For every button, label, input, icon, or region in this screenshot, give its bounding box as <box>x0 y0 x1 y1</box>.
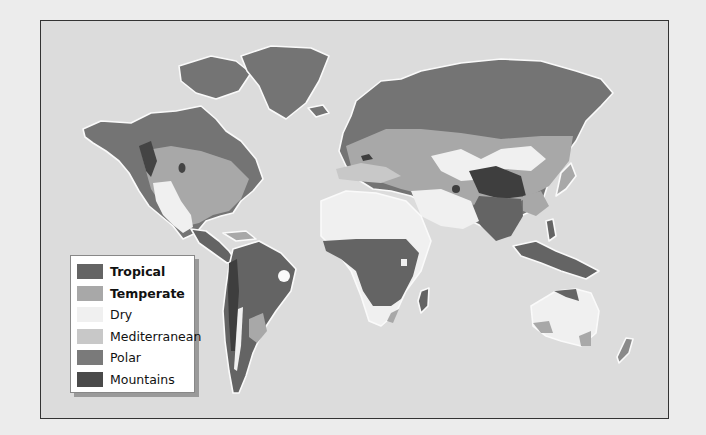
canadian-archipelago <box>179 56 251 99</box>
caribbean <box>223 231 256 241</box>
iceland <box>308 105 329 117</box>
swatch-polar <box>77 350 103 365</box>
swatch-mountains <box>77 372 103 387</box>
africa-dry-patch <box>401 259 407 266</box>
indonesia <box>513 241 599 279</box>
legend-item-dry: Dry <box>77 304 188 326</box>
legend-item-polar: Polar <box>77 347 188 369</box>
legend-label: Polar <box>110 350 141 365</box>
brazil-dry-patch <box>278 270 290 282</box>
legend-label: Dry <box>110 307 132 322</box>
legend-label: Temperate <box>110 286 185 301</box>
legend-item-temperate: Temperate <box>77 283 188 305</box>
legend-label: Tropical <box>110 264 165 279</box>
legend: Tropical Temperate Dry Mediterranean Pol… <box>70 255 195 393</box>
mountains-patch <box>179 163 186 173</box>
swatch-dry <box>77 307 103 322</box>
legend-label: Mediterranean <box>110 329 201 344</box>
legend-label: Mountains <box>110 372 175 387</box>
south-asia-tropical <box>471 196 523 241</box>
philippines <box>546 219 556 241</box>
legend-item-mountains: Mountains <box>77 369 188 391</box>
swatch-temperate <box>77 286 103 301</box>
new-zealand <box>617 338 633 363</box>
swatch-mediterranean <box>77 329 103 344</box>
legend-item-mediterranean: Mediterranean <box>77 326 188 348</box>
legend-item-tropical: Tropical <box>77 261 188 283</box>
madagascar <box>418 288 429 313</box>
mountains-patch-asia <box>452 185 460 193</box>
swatch-tropical <box>77 264 103 279</box>
